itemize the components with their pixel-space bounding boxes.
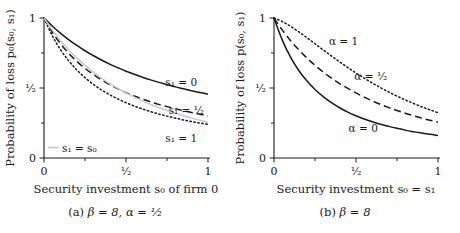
x-axis-label: Security investment s₀ of firm 0: [34, 182, 219, 196]
y-tick-label: 0: [29, 152, 36, 165]
panel-a-plot: 0¹⁄₂10¹⁄₂1Security investment s₀ of firm…: [0, 0, 230, 205]
x-tick-label: ¹⁄₂: [351, 165, 362, 178]
panel-b: 0¹⁄₂10¹⁄₂1Security investment s₀ = s₁Pro…: [230, 0, 460, 233]
curve-annotation: α = ¹⁄₂: [354, 70, 387, 82]
y-tick-label: 1: [259, 12, 266, 25]
curve: [274, 18, 438, 113]
panel-b-caption-prefix: (b): [320, 205, 336, 219]
curve-annotation: α = 0: [349, 122, 378, 134]
curve-annotation: s₁ = 1: [165, 132, 197, 144]
figure-container: 0¹⁄₂10¹⁄₂1Security investment s₀ of firm…: [0, 0, 460, 233]
curve: [44, 18, 208, 116]
panel-a: 0¹⁄₂10¹⁄₂1Security investment s₀ of firm…: [0, 0, 230, 233]
y-tick-label: ¹⁄₂: [255, 82, 266, 95]
panel-b-caption-body: β = 8: [340, 205, 371, 219]
x-axis-label: Security investment s₀ = s₁: [277, 182, 436, 196]
panel-a-caption-body: β = 8, α = ¹⁄₂: [88, 205, 162, 219]
y-tick-label: 0: [259, 152, 266, 165]
x-tick-label: 0: [271, 165, 278, 178]
y-tick-label: ¹⁄₂: [25, 82, 36, 95]
x-tick-label: ¹⁄₂: [121, 165, 132, 178]
curve-annotation: α = 1: [329, 35, 358, 47]
y-tick-label: 1: [29, 12, 36, 25]
panel-b-plot: 0¹⁄₂10¹⁄₂1Security investment s₀ = s₁Pro…: [230, 0, 460, 205]
curve-annotation: s₁ = 0: [165, 76, 197, 88]
y-axis-label: Probability of loss p(s₀, s₁): [233, 11, 247, 164]
panel-a-caption: (a) β = 8, α = ¹⁄₂: [0, 205, 230, 219]
curve-annotation: s₁ = s₀: [62, 142, 97, 154]
y-axis-label: Probability of loss p₀(s₀, s₁): [3, 9, 17, 167]
panel-b-caption: (b) β = 8: [230, 205, 460, 219]
x-tick-label: 0: [41, 165, 48, 178]
panel-a-caption-prefix: (a): [68, 205, 84, 219]
x-tick-label: 1: [205, 165, 212, 178]
curve-annotation: s₁ = ¹⁄₂: [169, 104, 204, 116]
x-tick-label: 1: [435, 165, 442, 178]
